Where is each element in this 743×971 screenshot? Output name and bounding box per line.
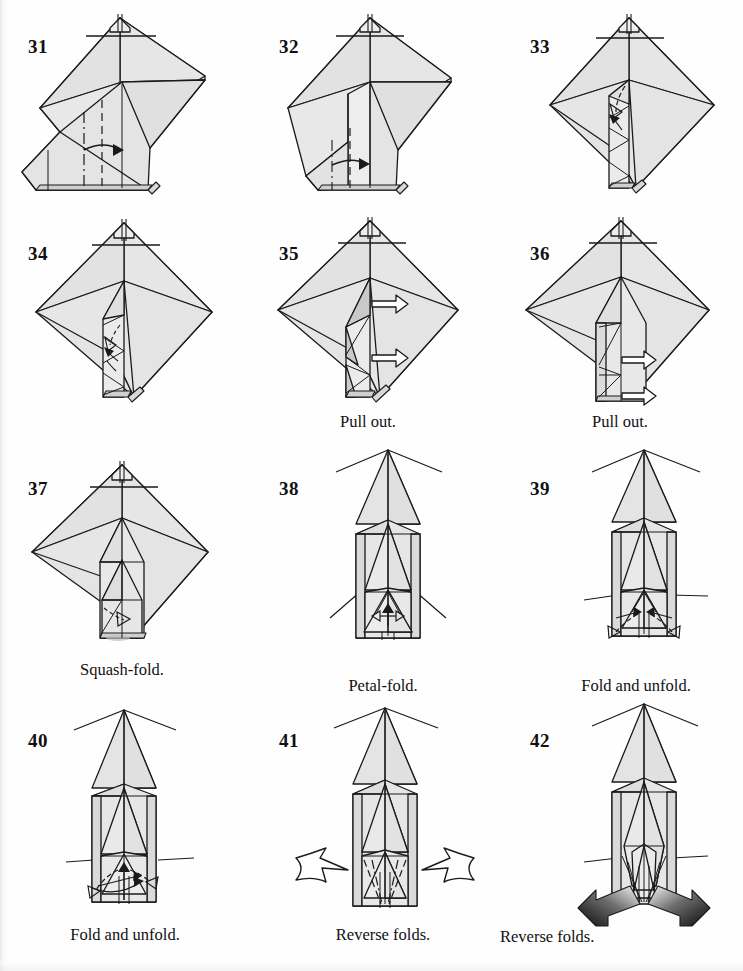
step-panel-41: 41 bbox=[248, 690, 496, 920]
origami-figure-38 bbox=[248, 440, 496, 660]
origami-figure-33 bbox=[496, 0, 743, 215]
step-number-34: 34 bbox=[28, 243, 48, 265]
step-number-31: 31 bbox=[28, 36, 48, 58]
step-panel-42: 42 bbox=[496, 690, 743, 920]
step-panel-36: 36 bbox=[496, 215, 743, 440]
caption-40: Fold and unfold. bbox=[70, 925, 180, 945]
step-number-35: 35 bbox=[279, 243, 299, 265]
origami-figure-39 bbox=[496, 440, 743, 660]
caption-42: Reverse folds. bbox=[500, 927, 594, 947]
origami-figure-31 bbox=[0, 0, 248, 215]
origami-figure-41 bbox=[248, 690, 496, 920]
step-panel-34: 34 bbox=[0, 215, 248, 440]
step-panel-32: 32 bbox=[248, 0, 496, 215]
scan-edge-bottom bbox=[0, 961, 743, 971]
step-number-32: 32 bbox=[279, 36, 299, 58]
step-number-39: 39 bbox=[530, 478, 550, 500]
gradient-push-arrow-right-42 bbox=[648, 886, 710, 926]
step-number-41: 41 bbox=[279, 730, 299, 752]
step-panel-35: 35 bbox=[248, 215, 496, 440]
step-number-38: 38 bbox=[279, 478, 299, 500]
step-panel-31: 31 bbox=[0, 0, 248, 215]
origami-figure-40 bbox=[0, 690, 248, 920]
push-arrow-left-41 bbox=[296, 848, 348, 882]
step-number-33: 33 bbox=[530, 36, 550, 58]
step-number-37: 37 bbox=[28, 478, 48, 500]
caption-37: Squash-fold. bbox=[80, 660, 164, 680]
caption-35: Pull out. bbox=[340, 412, 396, 432]
step-panel-39: 39 bbox=[496, 440, 743, 660]
step-number-42: 42 bbox=[530, 730, 550, 752]
origami-figure-32 bbox=[248, 0, 496, 215]
caption-41: Reverse folds. bbox=[336, 925, 430, 945]
step-panel-37: 37 bbox=[0, 440, 248, 660]
caption-36: Pull out. bbox=[592, 412, 648, 432]
push-arrow-right-41 bbox=[422, 848, 474, 882]
gradient-push-arrow-left-42 bbox=[578, 886, 640, 926]
step-panel-40: 40 bbox=[0, 690, 248, 920]
step-panel-33: 33 bbox=[496, 0, 743, 215]
step-number-36: 36 bbox=[530, 243, 550, 265]
origami-figure-42 bbox=[496, 690, 743, 930]
step-panel-38: 38 bbox=[248, 440, 496, 660]
diagram-page: 31 bbox=[0, 0, 743, 971]
step-number-40: 40 bbox=[28, 730, 48, 752]
origami-figure-37 bbox=[0, 440, 248, 660]
